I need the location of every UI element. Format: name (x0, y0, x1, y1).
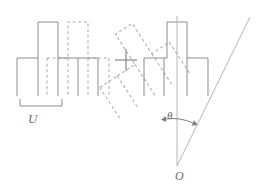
left-solid-profile (17, 22, 98, 96)
left-panel-group (17, 22, 109, 106)
angle-label-theta: θ (167, 110, 172, 121)
origin-label-O: O (175, 170, 184, 182)
figure-container: U θ O (0, 0, 257, 193)
figure-canvas (0, 0, 257, 193)
right-solid-profile (144, 22, 208, 96)
period-bracket (20, 99, 62, 106)
plus-operator-icon (115, 49, 137, 71)
right-panel-group (98, 12, 250, 166)
right-dashed-profile-rotated-secondary (100, 76, 138, 119)
rotated-axis-line (177, 17, 250, 166)
period-label-U: U (28, 112, 37, 125)
caption-strip (0, 183, 257, 193)
